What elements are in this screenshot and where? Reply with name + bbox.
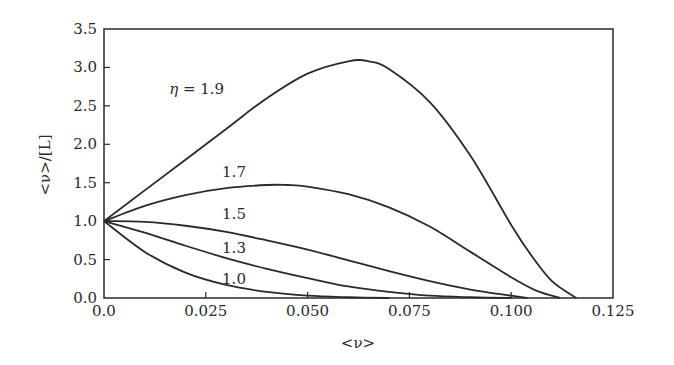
y-tick-label: 3.0 bbox=[73, 58, 97, 76]
x-tick-label: 0.100 bbox=[490, 302, 533, 320]
y-tick-label: 2.0 bbox=[73, 135, 97, 153]
y-tick-label: 1.5 bbox=[73, 174, 97, 192]
curve-label-2: 1.5 bbox=[222, 205, 246, 223]
y-tick-label: 3.5 bbox=[73, 20, 97, 38]
x-tick-label: 0.025 bbox=[184, 302, 227, 320]
y-tick-label: 0.5 bbox=[73, 251, 97, 269]
y-tick-label: 2.5 bbox=[73, 97, 97, 115]
x-axis-label: <ν> bbox=[341, 334, 375, 352]
y-tick-label: 0.0 bbox=[73, 289, 97, 307]
curve-label-3: 1.3 bbox=[222, 239, 246, 257]
x-tick-label: 0.075 bbox=[388, 302, 431, 320]
y-axis-label: <ν>/[L] bbox=[36, 135, 54, 196]
line-chart: 0.00.0250.0500.0750.1000.125 0.00.51.01.… bbox=[0, 0, 674, 365]
curve-labels: η = 1.91.71.51.31.0 bbox=[169, 80, 246, 288]
curve-series-2 bbox=[104, 221, 527, 298]
y-tick-label: 1.0 bbox=[73, 212, 97, 230]
x-tick-label: 0.125 bbox=[592, 302, 635, 320]
curve-label-0: η = 1.9 bbox=[169, 80, 224, 98]
curve-series-3 bbox=[104, 221, 511, 298]
x-tick-label: 0.050 bbox=[286, 302, 329, 320]
curve-label-1: 1.7 bbox=[222, 163, 246, 181]
curve-label-4: 1.0 bbox=[222, 270, 246, 288]
